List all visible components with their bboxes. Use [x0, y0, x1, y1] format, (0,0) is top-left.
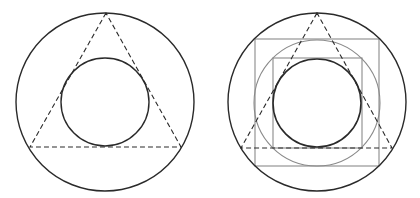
right-figure: [228, 13, 406, 191]
left-dashed-triangle: [30, 13, 181, 147]
left-inner-circle: [61, 58, 149, 146]
left-figure: [16, 13, 194, 191]
left-outer-circle: [16, 13, 194, 191]
right-inner-circle: [273, 59, 361, 147]
right-dashed-triangle: [241, 13, 392, 148]
diagram-svg: [0, 0, 420, 198]
diagram-canvas: [0, 0, 420, 198]
